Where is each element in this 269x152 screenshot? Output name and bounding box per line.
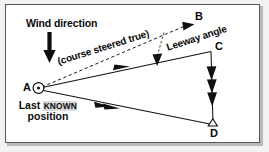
diagram-page: Wind direction A B C D Last KNOWN positi… <box>0 0 269 152</box>
vector-cd-drift <box>207 52 217 125</box>
last-known-position-label: Last KNOWN position <box>12 100 84 122</box>
point-d-label: D <box>210 128 218 140</box>
point-c-label: C <box>215 41 223 53</box>
last-known-suffix: position <box>28 110 69 122</box>
point-a-marker <box>33 83 44 94</box>
point-b-label: B <box>195 11 203 23</box>
point-d-marker <box>208 119 217 126</box>
leeway-angle-marker <box>153 33 165 67</box>
wind-direction-label: Wind direction <box>26 18 97 29</box>
wind-direction-arrow-icon <box>43 32 55 63</box>
point-a-label: A <box>23 82 31 94</box>
